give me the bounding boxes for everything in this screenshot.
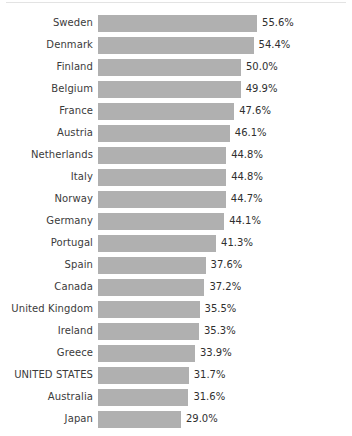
- bar-row-label: Australia: [0, 391, 93, 403]
- bar-row: Greece33.9%: [0, 342, 352, 364]
- bar-area: 35.3%: [98, 320, 352, 342]
- bar-area: 33.9%: [98, 342, 352, 364]
- bar-value-label: 31.6%: [193, 391, 225, 403]
- bar-area: 47.6%: [98, 100, 352, 122]
- bar-row: France47.6%: [0, 100, 352, 122]
- bar-row: United Kingdom35.5%: [0, 298, 352, 320]
- bar-area: 29.0%: [98, 408, 352, 430]
- bar-row-label: Denmark: [0, 39, 93, 51]
- bar-row-label: Canada: [0, 281, 93, 293]
- bar-row: Germany44.1%: [0, 210, 352, 232]
- bar-area: 54.4%: [98, 34, 352, 56]
- bar-value-label: 37.6%: [211, 259, 243, 271]
- bar-value-label: 44.8%: [231, 149, 263, 161]
- bar: [98, 59, 241, 76]
- bar-row-label: UNITED STATES: [0, 369, 93, 381]
- bar-chart: Sweden55.6%Denmark54.4%Finland50.0%Belgi…: [0, 0, 352, 436]
- bar: [98, 125, 230, 142]
- bar-row: Canada37.2%: [0, 276, 352, 298]
- bar-row: Japan29.0%: [0, 408, 352, 430]
- bar-area: 44.8%: [98, 144, 352, 166]
- bar-row-label: United Kingdom: [0, 303, 93, 315]
- bar-row: Austria46.1%: [0, 122, 352, 144]
- bar-row-label: Spain: [0, 259, 93, 271]
- bar: [98, 235, 216, 252]
- bar: [98, 301, 200, 318]
- bar-row: Belgium49.9%: [0, 78, 352, 100]
- bar-area: 50.0%: [98, 56, 352, 78]
- bar: [98, 15, 257, 32]
- top-divider: [6, 2, 346, 3]
- bar-row: Portugal41.3%: [0, 232, 352, 254]
- bar-row-label: Belgium: [0, 83, 93, 95]
- bar-row-label: France: [0, 105, 93, 117]
- bar-area: 31.6%: [98, 386, 352, 408]
- bar-row-label: Japan: [0, 413, 93, 425]
- bar-row: Finland50.0%: [0, 56, 352, 78]
- bar: [98, 257, 206, 274]
- bar-value-label: 44.1%: [229, 215, 261, 227]
- bar-row-label: Italy: [0, 171, 93, 183]
- bar: [98, 345, 195, 362]
- bar: [98, 213, 224, 230]
- bar-row-label: Netherlands: [0, 149, 93, 161]
- bar: [98, 323, 199, 340]
- bar-area: 41.3%: [98, 232, 352, 254]
- bar-row: Italy44.8%: [0, 166, 352, 188]
- bar-value-label: 29.0%: [186, 413, 218, 425]
- bar-value-label: 54.4%: [259, 39, 291, 51]
- bar: [98, 81, 241, 98]
- bar-area: 55.6%: [98, 12, 352, 34]
- bar-value-label: 41.3%: [221, 237, 253, 249]
- bar: [98, 389, 188, 406]
- bar-area: 44.8%: [98, 166, 352, 188]
- bar: [98, 367, 189, 384]
- bar-value-label: 46.1%: [235, 127, 267, 139]
- bar-value-label: 50.0%: [246, 61, 278, 73]
- bar-row-label: Austria: [0, 127, 93, 139]
- bar-row-label: Portugal: [0, 237, 93, 249]
- bar-row: Netherlands44.8%: [0, 144, 352, 166]
- bar-value-label: 35.5%: [205, 303, 237, 315]
- bar-row: UNITED STATES31.7%: [0, 364, 352, 386]
- bar-row-label: Germany: [0, 215, 93, 227]
- bar-value-label: 47.6%: [239, 105, 271, 117]
- bar: [98, 147, 226, 164]
- bar-area: 31.7%: [98, 364, 352, 386]
- bar-row: Sweden55.6%: [0, 12, 352, 34]
- bar-area: 49.9%: [98, 78, 352, 100]
- bar-value-label: 33.9%: [200, 347, 232, 359]
- bar-row-label: Sweden: [0, 17, 93, 29]
- bar-value-label: 44.7%: [231, 193, 263, 205]
- bar-area: 37.2%: [98, 276, 352, 298]
- bar-row-label: Norway: [0, 193, 93, 205]
- bar-value-label: 37.2%: [209, 281, 241, 293]
- bar-row: Ireland35.3%: [0, 320, 352, 342]
- bar: [98, 411, 181, 428]
- bar-row: Spain37.6%: [0, 254, 352, 276]
- bar-row-label: Finland: [0, 61, 93, 73]
- bar-value-label: 55.6%: [262, 17, 294, 29]
- bar-value-label: 49.9%: [246, 83, 278, 95]
- bar-row: Denmark54.4%: [0, 34, 352, 56]
- bar-value-label: 31.7%: [194, 369, 226, 381]
- bar: [98, 103, 234, 120]
- bar: [98, 279, 204, 296]
- bar-area: 44.7%: [98, 188, 352, 210]
- bar-area: 35.5%: [98, 298, 352, 320]
- bar-value-label: 35.3%: [204, 325, 236, 337]
- bar: [98, 37, 254, 54]
- bar-area: 44.1%: [98, 210, 352, 232]
- bar-area: 37.6%: [98, 254, 352, 276]
- bar-rows: Sweden55.6%Denmark54.4%Finland50.0%Belgi…: [0, 12, 352, 430]
- bar-row-label: Ireland: [0, 325, 93, 337]
- bar-row: Norway44.7%: [0, 188, 352, 210]
- bar: [98, 169, 226, 186]
- bar-area: 46.1%: [98, 122, 352, 144]
- bar-row-label: Greece: [0, 347, 93, 359]
- bar: [98, 191, 226, 208]
- bar-row: Australia31.6%: [0, 386, 352, 408]
- bar-value-label: 44.8%: [231, 171, 263, 183]
